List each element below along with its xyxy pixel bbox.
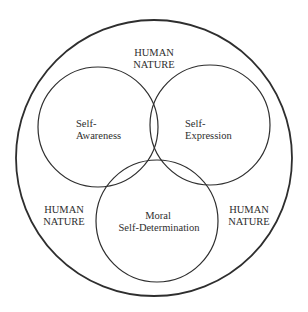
label-self-awareness-line2: Awareness <box>76 130 121 141</box>
label-human-nature-top-line2: NATURE <box>133 59 174 70</box>
label-moral-self-determination-line1: Moral <box>145 210 171 221</box>
label-moral-self-determination-line2: Self-Determination <box>118 222 200 233</box>
label-human-nature-top-line1: HUMAN <box>134 47 174 58</box>
label-human-nature-left-line1: HUMAN <box>44 204 84 215</box>
circle-moral-self-determination <box>96 160 218 282</box>
label-human-nature-right-line2: NATURE <box>228 216 269 227</box>
label-human-nature-left-line2: NATURE <box>43 216 84 227</box>
label-self-expression-line1: Self- <box>185 118 206 129</box>
circle-self-expression <box>150 65 270 185</box>
circle-self-awareness <box>38 67 158 187</box>
label-human-nature-right-line1: HUMAN <box>229 204 269 215</box>
venn-diagram: HUMAN NATURE HUMAN NATURE HUMAN NATURE S… <box>0 0 308 312</box>
label-self-expression-line2: Expression <box>185 130 232 141</box>
venn-diagram-svg: HUMAN NATURE HUMAN NATURE HUMAN NATURE S… <box>0 0 308 312</box>
label-self-awareness-line1: Self- <box>76 118 97 129</box>
